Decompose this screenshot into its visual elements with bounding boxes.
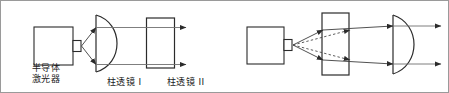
ray-diverging-upper-left xyxy=(82,28,97,47)
label-cylindrical-lens-1: 柱透镜 I xyxy=(107,77,142,88)
laser-body-right xyxy=(247,27,284,64)
laser-body-left xyxy=(34,27,73,65)
label-source-line1: 半导体 xyxy=(32,63,60,74)
label-semiconductor-laser: 半导体 激光器 xyxy=(32,63,60,85)
optical-diagram-figure: 半导体 激光器 柱透镜 I 柱透镜 II xyxy=(0,0,449,93)
label-source-line2: 激光器 xyxy=(32,74,60,85)
diagram-canvas xyxy=(1,1,449,93)
laser-emitter-nub-right xyxy=(284,40,292,51)
lens1-convex-face-left xyxy=(96,15,117,72)
lens2-rectangle-left xyxy=(147,18,175,68)
ray-diverging-lower-left xyxy=(82,46,97,65)
label-cylindrical-lens-2: 柱透镜 II xyxy=(167,77,205,88)
lens-rectangle-right xyxy=(322,13,349,75)
lens-convex-face-right xyxy=(393,15,414,74)
laser-emitter-nub-left xyxy=(73,41,81,52)
right-panel xyxy=(247,13,441,75)
ray-diverging-upper-right xyxy=(293,30,323,45)
ray-diverging-lower-right xyxy=(293,45,323,60)
